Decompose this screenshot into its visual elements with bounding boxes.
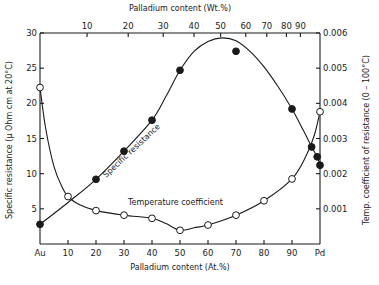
- filled-data-point: [177, 67, 184, 74]
- x-tick-label-top: 30: [158, 21, 169, 31]
- open-data-point: [121, 212, 128, 219]
- x-axis-title-top: Palladium content (Wt.%): [129, 4, 231, 13]
- x-tick-label-bottom: 60: [203, 248, 214, 258]
- x-tick-label-top: 50: [215, 21, 226, 31]
- x-tick-label-bottom: 80: [259, 248, 270, 258]
- specific-resistance-curve-label: Specific resistance: [101, 122, 162, 180]
- open-data-point: [149, 215, 156, 222]
- x-tick-label-top: 90: [295, 21, 306, 31]
- filled-data-point: [93, 176, 100, 183]
- open-data-point: [317, 108, 324, 115]
- x-tick-label-bottom: 10: [63, 248, 74, 258]
- x-axis-title-bottom: Palladium content (At.%): [130, 263, 229, 272]
- y-tick-label-right: 0.005: [323, 63, 347, 73]
- y-tick-label-left: 10: [26, 169, 37, 179]
- specific-resistance-curve: [40, 38, 320, 224]
- filled-data-point: [37, 221, 44, 228]
- y-tick-label-left: 15: [26, 134, 37, 144]
- y-tick-label-right: 0.002: [323, 169, 347, 179]
- y-tick-label-right: 0.001: [323, 204, 347, 214]
- filled-data-point: [308, 144, 315, 151]
- y-axis-title-right: Temp. coefficient of resistance (0 – 100…: [362, 55, 371, 226]
- x-tick-label-bottom: 30: [119, 248, 130, 258]
- y-axis-title-left: Specific resistance (μ Ohm cm at 20°C): [5, 61, 14, 219]
- axes-frame: Au102030405060708090Pd102030405060708090…: [26, 21, 347, 258]
- open-data-point: [205, 222, 212, 229]
- x-tick-label-bottom: 70: [231, 248, 242, 258]
- temperature-coefficient-curve-label: Temperature coefficient: [127, 198, 223, 207]
- filled-data-point: [233, 48, 240, 55]
- x-tick-label-top: 60: [240, 21, 251, 31]
- y-tick-label-left: 30: [26, 28, 37, 38]
- y-tick-label-right: 0.003: [323, 134, 347, 144]
- x-tick-label-bottom: Au: [34, 248, 45, 258]
- x-tick-label-top: 70: [261, 21, 272, 31]
- chart-container: Au102030405060708090Pd102030405060708090…: [0, 0, 379, 285]
- x-tick-label-bottom: 50: [175, 248, 186, 258]
- y-tick-label-right: 0.004: [323, 98, 347, 108]
- open-data-point: [261, 197, 268, 204]
- x-tick-label-top: 10: [82, 21, 93, 31]
- y-tick-label-left: 20: [26, 98, 37, 108]
- x-tick-label-bottom: 40: [147, 248, 158, 258]
- chart-svg: Au102030405060708090Pd102030405060708090…: [0, 0, 379, 285]
- x-tick-label-bottom: Pd: [315, 248, 326, 258]
- open-data-point: [289, 176, 296, 183]
- filled-data-point: [314, 153, 321, 160]
- open-data-point: [37, 84, 44, 91]
- open-data-point: [93, 207, 100, 214]
- open-data-point: [177, 227, 184, 234]
- x-tick-label-top: 80: [281, 21, 292, 31]
- x-tick-label-top: 20: [123, 21, 134, 31]
- filled-data-point: [317, 162, 324, 169]
- open-data-point: [233, 212, 240, 219]
- y-tick-label-left: 5: [32, 204, 37, 214]
- y-tick-label-right: 0.006: [323, 28, 347, 38]
- temperature-coefficient-curve: [40, 88, 320, 231]
- open-data-point: [65, 193, 72, 200]
- y-tick-label-left: 25: [26, 63, 37, 73]
- filled-data-point: [289, 106, 296, 113]
- x-tick-label-top: 40: [189, 21, 200, 31]
- x-tick-label-bottom: 20: [91, 248, 102, 258]
- x-tick-label-bottom: 90: [287, 248, 298, 258]
